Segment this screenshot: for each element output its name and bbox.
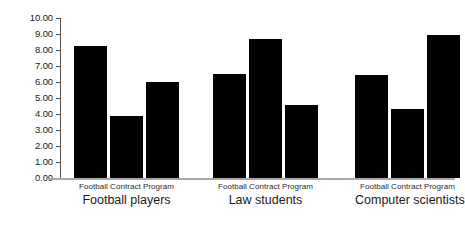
x-axis-labels: Football Contract ProgramFootball player… [0, 182, 455, 224]
y-axis-tick-label: 9.00 [35, 29, 53, 39]
y-axis-tick-label: 4.00 [35, 109, 53, 119]
bar [146, 82, 179, 178]
bar [427, 35, 460, 178]
plot-area [61, 18, 454, 178]
x-axis-group-name: Computer scientists [355, 193, 460, 209]
y-axis-tick-label: 10.00 [30, 13, 53, 23]
x-axis-group-name: Law students [213, 193, 318, 209]
bar [355, 75, 388, 178]
bar [285, 105, 318, 178]
bar-group [213, 18, 318, 178]
bar [74, 46, 107, 178]
y-axis-tick-label: 6.00 [35, 77, 53, 87]
bar-series-label: Football Contract Program [74, 182, 179, 192]
bar-series-label: Football Contract Program [355, 182, 460, 192]
x-axis-group-name: Football players [74, 193, 179, 209]
y-axis-tick-label: 7.00 [35, 61, 53, 71]
bar [249, 39, 282, 178]
bar-group [355, 18, 460, 178]
y-axis-tick-label: 5.00 [35, 93, 53, 103]
y-axis-tick-label: 2.00 [35, 141, 53, 151]
y-axis-tick-label: 1.00 [35, 157, 53, 167]
x-axis-line [46, 178, 455, 180]
bar [391, 109, 424, 178]
x-axis-group-label: Football Contract ProgramComputer scient… [355, 182, 460, 208]
bar-group [74, 18, 179, 178]
y-axis: 10.009.008.007.006.005.004.003.002.001.0… [0, 18, 60, 178]
y-axis-tick-label: 3.00 [35, 125, 53, 135]
bar-series-label: Football Contract Program [213, 182, 318, 192]
x-axis-group-label: Football Contract ProgramLaw students [213, 182, 318, 208]
bar [110, 116, 143, 178]
x-axis-group-label: Football Contract ProgramFootball player… [74, 182, 179, 208]
bar [213, 74, 246, 178]
y-axis-tick-label: 8.00 [35, 45, 53, 55]
